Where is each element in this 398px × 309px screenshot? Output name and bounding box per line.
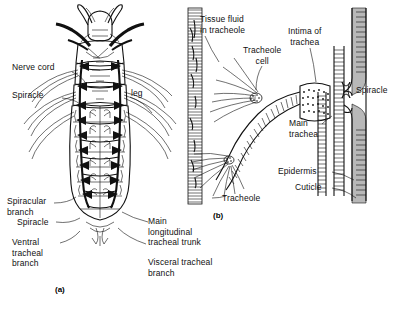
- label-tracheole: Tracheole: [222, 193, 260, 204]
- label-spiracle-lower: Spiracle: [17, 217, 49, 228]
- label-tissue-fluid-in-tracheole: Tissue fluid in tracheole: [200, 14, 245, 35]
- label-spiracle-panel-b: Spiracle: [356, 85, 388, 96]
- main-trachea: [318, 46, 344, 196]
- label-main-longitudinal-tracheal-trunk: Main longitudinal tracheal trunk: [148, 216, 201, 248]
- label-nerve-cord: Nerve cord: [12, 62, 55, 73]
- label-cuticle: Cuticle: [295, 182, 322, 193]
- label-leg: leg: [131, 88, 143, 99]
- tracheole-fan-upper: [210, 58, 262, 122]
- label-spiracle-upper: Spiracle: [12, 90, 44, 101]
- label-main-trachea: Main trachea: [289, 118, 318, 139]
- figure-canvas: Nerve cord Spiracle leg Spiracular branc…: [0, 0, 398, 309]
- muscle-tissue-strip: [188, 8, 202, 204]
- caption-panel-b: (b): [213, 211, 223, 220]
- cuticle-epidermis: [344, 8, 366, 203]
- label-spiracular-branch: Spiracular branch: [7, 196, 46, 217]
- label-epidermis: Epidermis: [278, 166, 317, 177]
- label-tracheole-cell: Tracheole cell: [243, 45, 281, 66]
- caption-panel-a: (a): [55, 285, 65, 294]
- label-intima-of-trachea: Intima of trachea: [288, 26, 322, 47]
- label-visceral-tracheal-branch: Visceral tracheal branch: [148, 257, 212, 278]
- label-ventral-tracheal-branch: Ventral tracheal branch: [12, 237, 43, 269]
